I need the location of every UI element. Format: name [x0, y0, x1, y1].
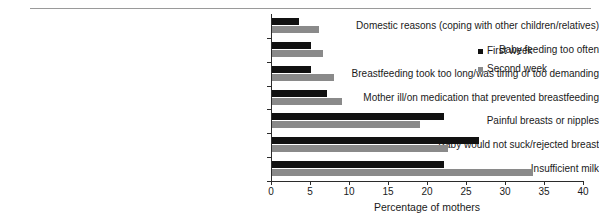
- y-axis-tick: [267, 38, 271, 39]
- y-axis-tick: [267, 133, 271, 134]
- x-axis-tick: [310, 181, 311, 185]
- x-axis-tick-label: 35: [529, 186, 559, 198]
- plot-area: 0510152025303540Domestic reasons (coping…: [0, 0, 599, 222]
- x-axis-tick-label: 0: [256, 186, 286, 198]
- bar-first-week: [272, 161, 444, 168]
- legend-swatch-icon: [478, 49, 483, 54]
- bar-first-week: [272, 90, 327, 97]
- bar-second-week: [272, 74, 334, 81]
- legend-swatch-icon: [478, 67, 483, 72]
- x-axis-tick-label: 40: [568, 186, 598, 198]
- x-axis-title: Percentage of mothers: [271, 201, 583, 214]
- bar-second-week: [272, 26, 319, 33]
- category-label: Baby feeding too often: [331, 44, 599, 56]
- legend-label: First week: [487, 44, 533, 58]
- x-axis-tick: [544, 181, 545, 185]
- bar-first-week: [272, 137, 479, 144]
- x-axis-tick: [271, 181, 272, 185]
- chart-legend: First weekSecond week: [478, 44, 547, 80]
- category-label: Breastfeeding took too long/was tiring o…: [331, 68, 599, 80]
- x-axis-tick: [388, 181, 389, 185]
- bar-first-week: [272, 113, 444, 120]
- x-axis-tick: [349, 181, 350, 185]
- category-label: Mother ill/on medication that prevented …: [331, 92, 599, 104]
- x-axis-tick-label: 10: [334, 186, 364, 198]
- x-axis-tick-label: 5: [295, 186, 325, 198]
- x-axis-tick: [466, 181, 467, 185]
- x-axis-tick: [505, 181, 506, 185]
- bar-first-week: [272, 18, 299, 25]
- legend-label: Second week: [487, 62, 547, 76]
- x-axis-tick: [427, 181, 428, 185]
- bar-second-week: [272, 50, 323, 57]
- y-axis-tick: [267, 86, 271, 87]
- x-axis-tick-label: 25: [451, 186, 481, 198]
- bar-second-week: [272, 169, 533, 176]
- y-axis-tick: [267, 157, 271, 158]
- bar-first-week: [272, 66, 311, 73]
- y-axis-tick: [267, 62, 271, 63]
- bar-chart-figure: 0510152025303540Domestic reasons (coping…: [0, 0, 599, 222]
- x-axis-tick-label: 30: [490, 186, 520, 198]
- x-axis-tick: [583, 181, 584, 185]
- x-axis-tick-label: 20: [412, 186, 442, 198]
- legend-item: First week: [478, 44, 547, 58]
- category-label: Domestic reasons (coping with other chil…: [331, 20, 599, 32]
- x-axis-tick-label: 15: [373, 186, 403, 198]
- bar-second-week: [272, 121, 420, 128]
- bar-second-week: [272, 145, 448, 152]
- bar-first-week: [272, 42, 311, 49]
- y-axis-tick: [267, 181, 271, 182]
- legend-item: Second week: [478, 62, 547, 76]
- y-axis-tick: [267, 109, 271, 110]
- bar-second-week: [272, 98, 342, 105]
